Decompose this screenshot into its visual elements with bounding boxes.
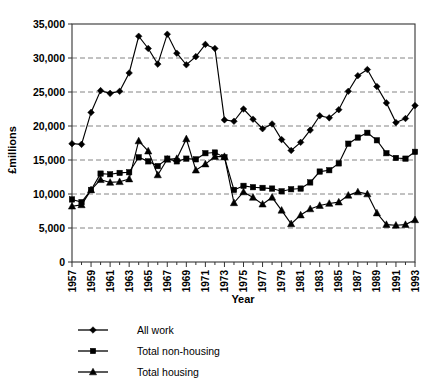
data-point-square: [317, 169, 322, 174]
x-tick-label: 1961: [105, 270, 116, 293]
data-point-diamond: [88, 109, 95, 116]
data-point-diamond: [355, 72, 362, 79]
x-axis-ticks: [72, 262, 415, 267]
x-tick-label: 1993: [410, 270, 421, 293]
data-point-square: [412, 149, 417, 154]
data-point-square: [146, 159, 151, 164]
data-point-square: [203, 151, 208, 156]
legend-label: Total non-housing: [137, 345, 220, 357]
data-point-triangle: [173, 155, 180, 162]
data-point-square: [269, 186, 274, 191]
legend-label: Total housing: [137, 366, 199, 378]
data-point-diamond: [383, 100, 390, 107]
y-tick-label: 20,000: [33, 120, 65, 132]
y-axis-title: £millions: [6, 126, 18, 174]
x-tick-label: 1957: [67, 270, 78, 293]
data-point-square: [193, 157, 198, 162]
data-point-triangle: [126, 175, 133, 182]
chart-legend: All workTotal non-housingTotal housing: [78, 324, 220, 378]
data-point-square: [184, 156, 189, 161]
legend-item-total-housing: Total housing: [78, 366, 199, 378]
y-tick-label: 30,000: [33, 52, 65, 64]
data-point-diamond: [221, 117, 228, 124]
y-tick-label: 15,000: [33, 154, 65, 166]
data-point-diamond: [126, 70, 133, 77]
data-point-diamond: [97, 87, 104, 94]
x-tick-label: 1973: [219, 270, 230, 293]
x-tick-label: 1983: [314, 270, 325, 293]
data-point-triangle: [373, 209, 380, 216]
data-point-triangle: [354, 188, 361, 195]
x-tick-label: 1987: [352, 270, 363, 293]
legend-label: All work: [137, 324, 175, 336]
data-point-diamond: [374, 83, 381, 90]
data-point-square: [327, 168, 332, 173]
data-point-triangle: [192, 166, 199, 173]
data-point-triangle: [259, 200, 266, 207]
data-point-triangle: [135, 137, 142, 144]
plot-area-border: [72, 24, 415, 262]
data-point-diamond: [78, 141, 85, 148]
plot-frame: [72, 24, 415, 262]
data-point-triangle: [183, 135, 190, 142]
data-point-triangle: [335, 198, 342, 205]
data-point-triangle: [202, 160, 209, 167]
data-point-triangle: [240, 188, 247, 195]
x-tick-label: 1975: [238, 270, 249, 293]
data-point-square: [355, 135, 360, 140]
data-point-square: [279, 189, 284, 194]
x-tick-label: 1985: [333, 270, 344, 293]
data-point-square: [288, 187, 293, 192]
data-point-square: [346, 141, 351, 146]
data-point-triangle: [154, 171, 161, 178]
data-series-group: [68, 31, 418, 228]
y-tick-label: 0: [59, 256, 65, 268]
data-point-square: [260, 185, 265, 190]
x-tick-label: 1963: [124, 270, 135, 293]
x-tick-label: 1977: [257, 270, 268, 293]
data-point-triangle: [268, 194, 275, 201]
data-point-square: [107, 172, 112, 177]
data-point-square: [374, 138, 379, 143]
x-tick-label: 1991: [391, 270, 402, 293]
x-tick-label: 1989: [371, 270, 382, 293]
data-point-diamond: [364, 66, 371, 73]
data-point-square: [136, 155, 141, 160]
data-point-triangle: [297, 211, 304, 218]
data-point-square: [117, 170, 122, 175]
data-point-diamond: [154, 61, 161, 68]
data-point-triangle: [249, 194, 256, 201]
data-point-diamond: [316, 113, 323, 120]
series-line: [72, 139, 415, 225]
y-tick-label: 5,000: [39, 222, 65, 234]
x-tick-label: 1967: [162, 270, 173, 293]
legend-marker-square: [90, 348, 95, 353]
data-point-square: [393, 155, 398, 160]
x-tick-label: 1979: [276, 270, 287, 293]
x-axis-title: Year: [231, 293, 255, 305]
y-axis-tick-labels: 05,00010,00015,00020,00025,00030,00035,0…: [33, 18, 65, 268]
legend-item-all-work: All work: [78, 324, 175, 336]
data-point-square: [336, 161, 341, 166]
data-point-diamond: [212, 45, 219, 52]
y-tick-label: 25,000: [33, 86, 65, 98]
x-tick-label: 1971: [200, 270, 211, 293]
data-point-square: [250, 185, 255, 190]
data-point-triangle: [402, 221, 409, 228]
data-point-diamond: [116, 88, 123, 95]
data-point-diamond: [345, 88, 352, 95]
x-axis-tick-labels: 1957195919611963196519671969197119731975…: [67, 270, 421, 293]
y-tick-label: 10,000: [33, 188, 65, 200]
data-point-square: [307, 180, 312, 185]
data-point-diamond: [164, 31, 171, 38]
line-chart: 05,00010,00015,00020,00025,00030,00035,0…: [0, 0, 436, 381]
data-point-square: [403, 156, 408, 161]
data-point-diamond: [107, 90, 114, 97]
data-point-triangle: [411, 216, 418, 223]
x-tick-label: 1981: [295, 270, 306, 293]
data-point-square: [69, 197, 74, 202]
data-point-square: [298, 186, 303, 191]
x-tick-label: 1969: [181, 270, 192, 293]
legend-item-total-non-housing: Total non-housing: [78, 345, 220, 357]
chart-container: 05,00010,00015,00020,00025,00030,00035,0…: [0, 0, 436, 381]
